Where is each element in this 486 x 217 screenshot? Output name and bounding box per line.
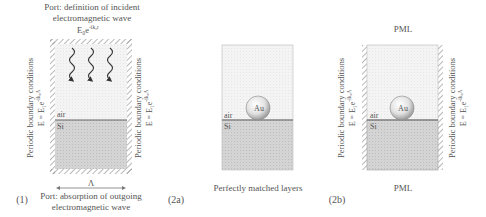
panel-2b-label: (2b): [329, 194, 346, 206]
left-boundary-hatch: [50, 39, 55, 174]
svg-text:Periodic boundary conditions: Periodic boundary conditions: [25, 58, 35, 158]
panel-1-label: (1): [16, 194, 28, 206]
left-boundary-hatch: [362, 45, 367, 170]
si-region: [367, 120, 438, 170]
right-bc-text: Periodic boundary conditions E = E₁e-ik₀…: [447, 58, 468, 158]
period-label: Λ: [88, 178, 95, 188]
svg-text:E = E₁e-ik₀Λ: E = E₁e-ik₀Λ: [457, 90, 468, 127]
top-port-label-line2: electromagnetic wave: [53, 13, 132, 23]
svg-text:E = E₁e-ik₀Λ: E = E₁e-ik₀Λ: [35, 90, 46, 127]
left-bc-text: Periodic boundary conditions E = E₁e-ik₀…: [336, 58, 357, 158]
svg-text:Periodic boundary conditions: Periodic boundary conditions: [336, 58, 346, 158]
panel-2a: Au air Si Perfectly matched layers (2a): [168, 45, 303, 206]
si-region: [55, 120, 127, 169]
air-label: air: [57, 110, 66, 119]
right-boundary-hatch: [127, 39, 132, 174]
bottom-port-hatch: [50, 169, 132, 174]
svg-text:E = E₁e-ik₀Λ: E = E₁e-ik₀Λ: [346, 90, 357, 127]
si-region: [222, 120, 293, 170]
svg-text:Periodic boundary conditions: Periodic boundary conditions: [447, 58, 457, 158]
panel-2b: PML Au air Si Periodic boundary conditio…: [329, 24, 468, 206]
right-boundary-hatch: [438, 45, 443, 170]
pml-top-caption: PML: [394, 24, 413, 34]
panel-2a-label: (2a): [168, 194, 184, 206]
top-port-hatch: [50, 39, 132, 44]
bottom-port-label-line1: Port: absorption of outgoing: [40, 191, 142, 201]
incident-field-label: E₀e-ik₀r: [77, 24, 99, 35]
si-label: Si: [57, 122, 64, 131]
pml-caption: Perfectly matched layers: [214, 183, 303, 193]
svg-text:E = E₁e-ik₀Λ: E = E₁e-ik₀Λ: [143, 90, 154, 127]
si-label: Si: [370, 122, 377, 131]
top-port-label-line1: Port: definition of incident: [44, 2, 140, 12]
au-label: Au: [398, 104, 408, 113]
pml-bottom-caption: PML: [394, 183, 413, 193]
bottom-port-label-line2: electromagnetic wave: [52, 202, 131, 212]
si-label: Si: [224, 122, 231, 131]
panel-1: Port: definition of incident electromagn…: [16, 2, 154, 212]
svg-text:Periodic boundary conditions: Periodic boundary conditions: [133, 58, 143, 158]
simulation-diagram: Port: definition of incident electromagn…: [0, 0, 486, 217]
right-bc-text: Periodic boundary conditions E = E₁e-ik₀…: [133, 58, 154, 158]
air-label: air: [224, 111, 233, 120]
left-bc-text: Periodic boundary conditions E = E₁e-ik₀…: [25, 58, 46, 158]
au-label: Au: [254, 104, 264, 113]
air-label: air: [370, 111, 379, 120]
